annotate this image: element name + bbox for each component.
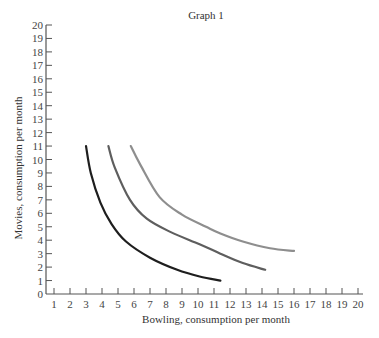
y-tick-label: 3	[38, 248, 44, 260]
y-tick-label: 4	[38, 234, 44, 246]
x-tick-label: 8	[163, 298, 169, 310]
x-tick-label: 1	[51, 298, 57, 310]
indifference-curve-1	[86, 146, 220, 280]
y-tick-label: 10	[32, 154, 44, 166]
y-tick-label: 18	[32, 46, 44, 58]
y-axis-title: Movies, consumption per month	[12, 96, 24, 239]
indifference-curve-3	[131, 146, 294, 251]
y-tick-label: 8	[38, 180, 44, 192]
x-tick-label: 20	[353, 298, 365, 310]
y-tick-label: 9	[38, 167, 44, 179]
x-tick-label: 6	[131, 298, 137, 310]
x-tick-label: 11	[209, 298, 220, 310]
y-tick-label: 12	[32, 127, 43, 139]
y-tick-label: 11	[32, 140, 43, 152]
x-tick-label: 13	[241, 298, 253, 310]
x-tick-label: 17	[305, 298, 317, 310]
y-tick-label: 1	[38, 275, 44, 287]
x-tick-label: 10	[193, 298, 205, 310]
x-tick-label: 3	[83, 298, 89, 310]
x-tick-label: 2	[67, 298, 73, 310]
y-axis: 01234567891011121314151617181920	[32, 19, 52, 300]
y-tick-label: 5	[38, 221, 44, 233]
y-tick-label: 6	[38, 207, 44, 219]
chart-canvas: Graph 1 01234567891011121314151617181920…	[0, 0, 379, 338]
indifference-curve-2	[108, 146, 265, 270]
y-tick-label: 19	[32, 32, 44, 44]
x-tick-label: 5	[115, 298, 121, 310]
x-axis-title: Bowling, consumption per month	[142, 313, 290, 325]
x-tick-label: 7	[147, 298, 153, 310]
x-tick-label: 12	[225, 298, 236, 310]
y-tick-label: 13	[32, 113, 44, 125]
x-tick-label: 15	[273, 298, 285, 310]
x-tick-label: 4	[99, 298, 105, 310]
y-tick-label: 17	[32, 59, 44, 71]
y-tick-label: 16	[32, 73, 44, 85]
y-tick-label: 20	[32, 19, 44, 31]
x-tick-label: 14	[257, 298, 269, 310]
y-tick-label: 0	[38, 288, 44, 300]
y-tick-label: 14	[32, 100, 44, 112]
x-tick-label: 18	[321, 298, 333, 310]
series-layer	[86, 146, 294, 280]
y-tick-label: 15	[32, 86, 44, 98]
x-tick-label: 16	[289, 298, 301, 310]
x-tick-label: 9	[179, 298, 185, 310]
x-axis: 1234567891011121314151617181920	[46, 288, 364, 310]
x-tick-label: 19	[337, 298, 349, 310]
chart-title: Graph 1	[188, 9, 224, 21]
y-tick-label: 2	[38, 261, 44, 273]
y-tick-label: 7	[38, 194, 44, 206]
